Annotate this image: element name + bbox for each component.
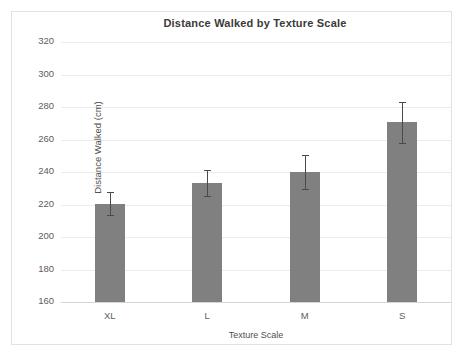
bar-m [290, 172, 320, 302]
y-axis-tick-label: 180 [14, 263, 54, 274]
chart-title: Distance Walked by Texture Scale [60, 17, 450, 29]
y-axis-tick-label: 320 [14, 35, 54, 46]
gridline [61, 107, 451, 108]
y-axis-tick-label: 160 [14, 295, 54, 306]
gridline [61, 302, 451, 303]
error-bar-cap-upper-m [302, 155, 309, 156]
chart-figure: Distance Walked by Texture Scale 1601802… [0, 0, 467, 358]
x-axis-title: Texture Scale [61, 330, 451, 340]
plot-area: 160180200220240260280300320 XLLMS Distan… [61, 42, 451, 302]
x-axis-tick-label-s: S [372, 310, 432, 321]
x-axis-tick-label-m: M [275, 310, 335, 321]
y-axis-title: Distance Walked (cm) [92, 68, 103, 228]
y-axis-tick-label: 300 [14, 68, 54, 79]
x-axis-tick-label-l: L [177, 310, 237, 321]
error-bar-cap-upper-xl [107, 192, 114, 193]
y-axis-tick-label: 220 [14, 198, 54, 209]
bar-l [192, 183, 222, 302]
y-axis-tick-label: 240 [14, 165, 54, 176]
error-bar-cap-upper-l [204, 170, 211, 171]
error-bar-line-l [207, 170, 208, 196]
gridline [61, 75, 451, 76]
y-axis-tick-label: 200 [14, 230, 54, 241]
y-axis-tick-label: 260 [14, 133, 54, 144]
error-bar-cap-lower-m [302, 189, 309, 190]
error-bar-cap-lower-s [399, 143, 406, 144]
error-bar-cap-lower-xl [107, 215, 114, 216]
error-bar-line-s [402, 102, 403, 143]
bar-s [387, 122, 417, 302]
error-bar-line-xl [110, 192, 111, 215]
error-bar-cap-lower-l [204, 196, 211, 197]
x-axis-tick-label-xl: XL [80, 310, 140, 321]
error-bar-line-m [305, 155, 306, 189]
error-bar-cap-upper-s [399, 102, 406, 103]
y-axis-tick-label: 280 [14, 100, 54, 111]
gridline [61, 42, 451, 43]
